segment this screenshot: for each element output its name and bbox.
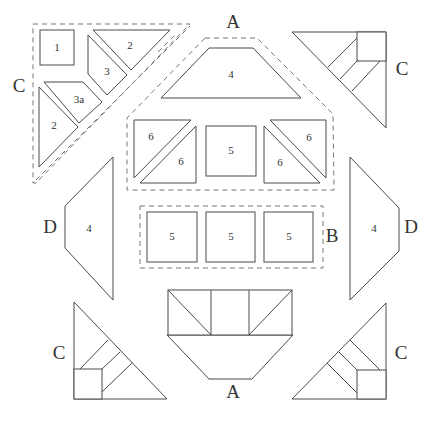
label-d-right: D [404,216,418,237]
c-piece-3a-number: 3a [74,93,85,105]
unit-c-bottom-left [74,302,167,399]
b-square-3-number: 5 [286,230,292,242]
b-square-1-number: 5 [169,230,175,242]
unit-c-bottom-right [292,303,386,399]
label-c-top-right: C [396,58,409,79]
label-c-top-left: C [13,75,26,96]
unit-d-right: 4 [350,157,399,300]
c-piece-3-number: 3 [104,65,110,77]
a-right-hst-lower-number: 6 [277,156,283,168]
a-left-hst-lower-number: 6 [178,155,184,167]
c-top-triangle-number: 2 [127,39,133,51]
a-bottom-trapezoid [167,335,293,379]
label-c-bottom-right: C [395,342,408,363]
c-corner-square [357,32,386,61]
label-a-top: A [226,11,240,32]
a-right-hst-upper-number: 6 [306,131,312,143]
c-bl-corner-square [74,369,102,399]
c-br-corner-square [357,370,386,399]
quilt-diagram: 1 2 3 3a 2 C 4 6 6 5 6 6 A C [0,0,436,424]
c-square-number: 1 [54,41,60,53]
d-right-number: 4 [371,222,377,234]
a-left-hst-upper-number: 6 [148,130,154,142]
a-center-square-number: 5 [228,144,234,156]
diagram-svg: 1 2 3 3a 2 C 4 6 6 5 6 6 A C [0,0,436,424]
a-trapezoid-number: 4 [228,68,234,80]
label-b: B [326,225,339,246]
unit-a-top: 4 6 6 5 6 6 [127,38,334,190]
d-left-number: 4 [86,222,92,234]
label-a-bottom: A [226,381,240,402]
c-left-triangle-number: 2 [51,119,57,131]
b-square-2-number: 5 [228,230,234,242]
unit-d-left: 4 [65,157,113,300]
label-d-left: D [43,216,57,237]
unit-c-top-right [292,32,386,128]
unit-b: 5 5 5 [140,206,323,268]
label-c-bottom-left: C [53,342,66,363]
unit-a-bottom [167,290,293,379]
a-bottom-strip [168,290,292,335]
